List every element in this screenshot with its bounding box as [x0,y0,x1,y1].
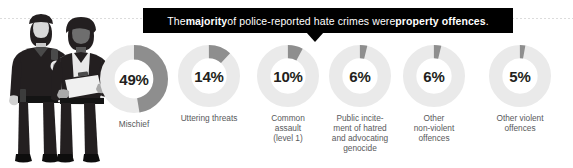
donut-percent-value: 5% [489,45,551,107]
headline-bold-property-offences: property offences [395,15,485,27]
headline-banner: The majority of police-reported hate cri… [143,8,513,33]
headline-text: The majority of police-reported hate cri… [143,8,513,33]
donut-chart-6: 5%Other violentoffences [465,45,573,133]
headline-bold-majority: majority [186,15,228,27]
donut-ring: 5% [489,45,551,107]
donut-ring: 14% [178,45,240,107]
donut-percent-value: 14% [178,45,240,107]
infographic-canvas: The majority of police-reported hate cri… [0,0,573,168]
headline-middle: of police-reported hate crimes were [227,15,395,27]
donut-label-line: offences [379,133,489,143]
donut-label-line: offences [465,123,573,133]
donut-label: Other violentoffences [465,113,573,133]
headline-suffix: . [486,15,489,27]
donut-label-line: Other violent [465,113,573,123]
headline-prefix: The [167,15,185,27]
donut-ring: 6% [403,45,465,107]
donut-label-line: genocide [305,143,415,153]
banner-pointer-tail [306,32,324,42]
donut-percent-value: 6% [403,45,465,107]
